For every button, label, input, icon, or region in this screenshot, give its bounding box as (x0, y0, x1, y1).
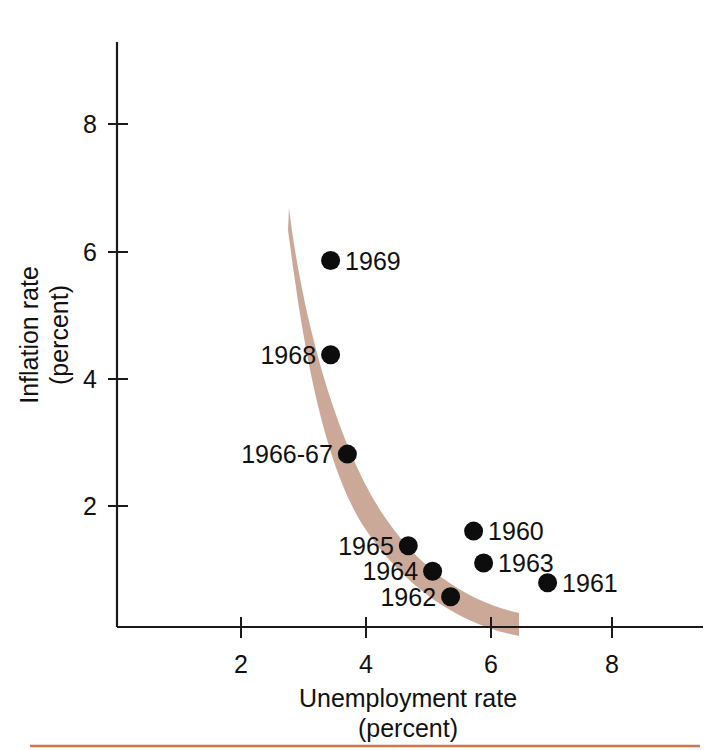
data-point-label: 1968 (260, 341, 316, 369)
data-point-dot (321, 251, 340, 270)
x-axis-title-units: (percent) (358, 714, 458, 742)
x-tick-label-6: 6 (484, 650, 498, 678)
data-point-dot (474, 554, 493, 573)
y-tick-label-6: 6 (83, 238, 97, 266)
chart-canvas: 8 6 4 2 2 4 6 8 Unemployment rate (perce… (0, 0, 717, 750)
data-point-label: 1962 (380, 583, 436, 611)
data-point-dot (321, 345, 340, 364)
y-tick-label-8: 8 (83, 110, 97, 138)
x-axis-title: Unemployment rate (299, 684, 517, 712)
x-tick-label-2: 2 (234, 650, 248, 678)
data-point-dot (399, 536, 418, 555)
phillips-curve-figure: 8 6 4 2 2 4 6 8 Unemployment rate (perce… (0, 0, 717, 750)
y-tick-label-4: 4 (83, 365, 97, 393)
data-point-dot (423, 562, 442, 581)
data-point-label: 1964 (362, 557, 418, 585)
y-axis-title: Inflation rate (15, 266, 43, 404)
x-tick-label-4: 4 (359, 650, 373, 678)
data-point-group: 196919681966-67196019651963196419611962 (241, 247, 618, 611)
data-point-label: 1965 (338, 532, 394, 560)
data-point-label: 1960 (488, 517, 544, 545)
data-point-label: 1961 (562, 569, 618, 597)
data-point-dot (464, 522, 483, 541)
data-point-dot (538, 573, 557, 592)
y-axis-title-units: (percent) (45, 285, 73, 385)
data-point-label: 1969 (345, 247, 401, 275)
data-point-label: 1966-67 (241, 440, 333, 468)
y-tick-label-2: 2 (83, 492, 97, 520)
data-point-dot (441, 587, 460, 606)
data-point-dot (338, 445, 357, 464)
data-point-label: 1963 (498, 549, 554, 577)
x-tick-label-8: 8 (605, 650, 619, 678)
